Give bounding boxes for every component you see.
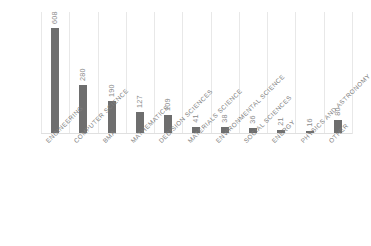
bar[interactable] [136,112,144,134]
bar[interactable] [51,28,59,134]
bar-group[interactable]: 127 [126,12,154,134]
bar-value-label: 280 [80,68,87,81]
bar-group[interactable]: 36 [239,12,267,134]
axis-baseline [41,133,352,134]
bar-group[interactable]: 38 [211,12,239,134]
bar-value-label: 109 [165,98,172,111]
bar-group[interactable]: 21 [267,12,295,134]
bar-value-label: 80 [334,107,341,115]
bar-value-label: 21 [278,118,285,126]
bar-value-label: 41 [193,114,200,122]
bar-value-label: 190 [108,84,115,97]
bar[interactable] [79,85,87,134]
gridline [352,12,353,134]
bar-value-label: 36 [249,115,256,123]
bar-group[interactable]: 80 [324,12,352,134]
bar[interactable] [334,120,342,134]
bar[interactable] [108,101,116,134]
bar-value-label: 127 [136,95,143,108]
bar-series: 608280190127109413836211680 [41,12,352,134]
bar-value-label: 16 [306,119,313,127]
bar-group[interactable]: 109 [154,12,182,134]
bar[interactable] [164,115,172,134]
bar-value-label: 38 [221,115,228,123]
bar-group[interactable]: 41 [182,12,210,134]
bar-group[interactable]: 190 [98,12,126,134]
plot-area: 608280190127109413836211680 [41,12,352,134]
bar-group[interactable]: 16 [295,12,323,134]
bar-group[interactable]: 608 [41,12,69,134]
bar-group[interactable]: 280 [69,12,97,134]
bar-value-label: 608 [52,11,59,24]
